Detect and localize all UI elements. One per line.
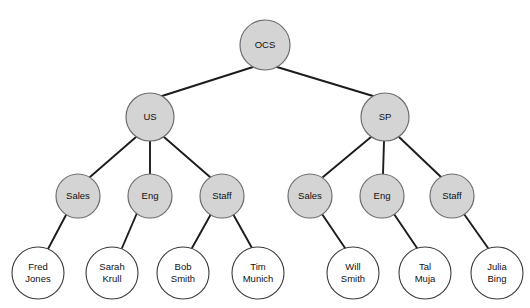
node-label: SP [379, 111, 392, 122]
edge-region_us-to-us_staff [164, 137, 210, 177]
leaf-label-line1: Fred [28, 261, 48, 272]
edge-layer [48, 67, 488, 249]
edge-sp_staff-to-p_julia [464, 214, 488, 248]
edge-us_staff-to-p_bob [192, 214, 211, 248]
node-us-staff[interactable]: Staff [200, 174, 244, 218]
node-label: Staff [442, 190, 462, 201]
leaf-label-line1: Julia [487, 261, 507, 272]
edge-region_sp-to-sp_sales [323, 137, 371, 177]
edge-root-to-region_sp [277, 67, 373, 96]
edge-region_sp-to-sp_eng [383, 141, 384, 174]
node-us-sales[interactable]: Sales [56, 174, 100, 218]
edge-region_us-to-us_sales [90, 137, 136, 177]
org-chart-svg: OCSUSSPSalesEngStaffSalesEngStaffFredJon… [0, 0, 530, 308]
node-sp-sales[interactable]: Sales [288, 174, 332, 218]
node-label: Eng [142, 190, 159, 201]
leaf-label-line2: Smith [171, 273, 195, 284]
node-p-julia[interactable]: JuliaBing [471, 247, 523, 299]
node-p-will[interactable]: WillSmith [327, 247, 379, 299]
leaf-label-line2: Bing [487, 273, 506, 284]
node-p-sarah[interactable]: SarahKrull [86, 247, 138, 299]
edge-sp_eng-to-p_tal [394, 214, 417, 248]
leaf-label-line2: Jones [25, 273, 51, 284]
node-label: Staff [212, 190, 232, 201]
edge-root-to-region_us [162, 67, 253, 96]
leaf-label-line1: Sarah [99, 261, 124, 272]
edge-us_sales-to-p_fred [48, 215, 66, 249]
edge-us_staff-to-p_tim [233, 214, 252, 248]
leaf-label: JuliaBing [487, 261, 507, 284]
leaf-label-line2: Smith [341, 273, 365, 284]
node-label: Sales [298, 190, 322, 201]
edge-us_eng-to-p_sarah [122, 213, 137, 248]
leaf-label-line2: Muja [415, 273, 436, 284]
node-label: OCS [255, 39, 276, 50]
leaf-label: SarahKrull [99, 261, 124, 284]
node-region-us[interactable]: US [126, 93, 174, 141]
leaf-label: FredJones [25, 261, 51, 284]
node-p-bob[interactable]: BobSmith [157, 247, 209, 299]
edge-region_sp-to-sp_staff [399, 137, 441, 177]
org-chart-canvas: OCSUSSPSalesEngStaffSalesEngStaffFredJon… [0, 0, 530, 308]
node-p-tim[interactable]: TimMunich [232, 247, 284, 299]
leaf-label-line1: Bob [175, 261, 192, 272]
leaf-label-line2: Krull [102, 273, 121, 284]
node-root[interactable]: OCS [240, 20, 290, 70]
leaf-label-line1: Will [345, 261, 360, 272]
leaf-label-line1: Tal [419, 261, 431, 272]
leaf-label-line1: Tim [250, 261, 266, 272]
node-region-sp[interactable]: SP [361, 93, 409, 141]
node-sp-staff[interactable]: Staff [430, 174, 474, 218]
node-us-eng[interactable]: Eng [128, 174, 172, 218]
node-p-tal[interactable]: TalMuja [399, 247, 451, 299]
node-layer: OCSUSSPSalesEngStaffSalesEngStaffFredJon… [12, 20, 523, 299]
node-label: Sales [66, 190, 90, 201]
node-sp-eng[interactable]: Eng [360, 174, 404, 218]
edge-sp_sales-to-p_will [322, 214, 345, 248]
node-label: Eng [374, 190, 391, 201]
leaf-label-line2: Munich [243, 273, 274, 284]
node-label: US [143, 111, 156, 122]
node-p-fred[interactable]: FredJones [12, 247, 64, 299]
